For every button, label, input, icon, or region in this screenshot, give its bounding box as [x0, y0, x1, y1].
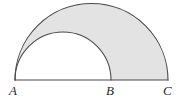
vertex-label-B: B	[106, 84, 114, 97]
geometry-figure: A B C	[0, 0, 180, 103]
semicircle-diagram-svg	[0, 0, 180, 103]
vertex-label-A: A	[9, 84, 17, 97]
vertex-label-C: C	[163, 84, 172, 97]
